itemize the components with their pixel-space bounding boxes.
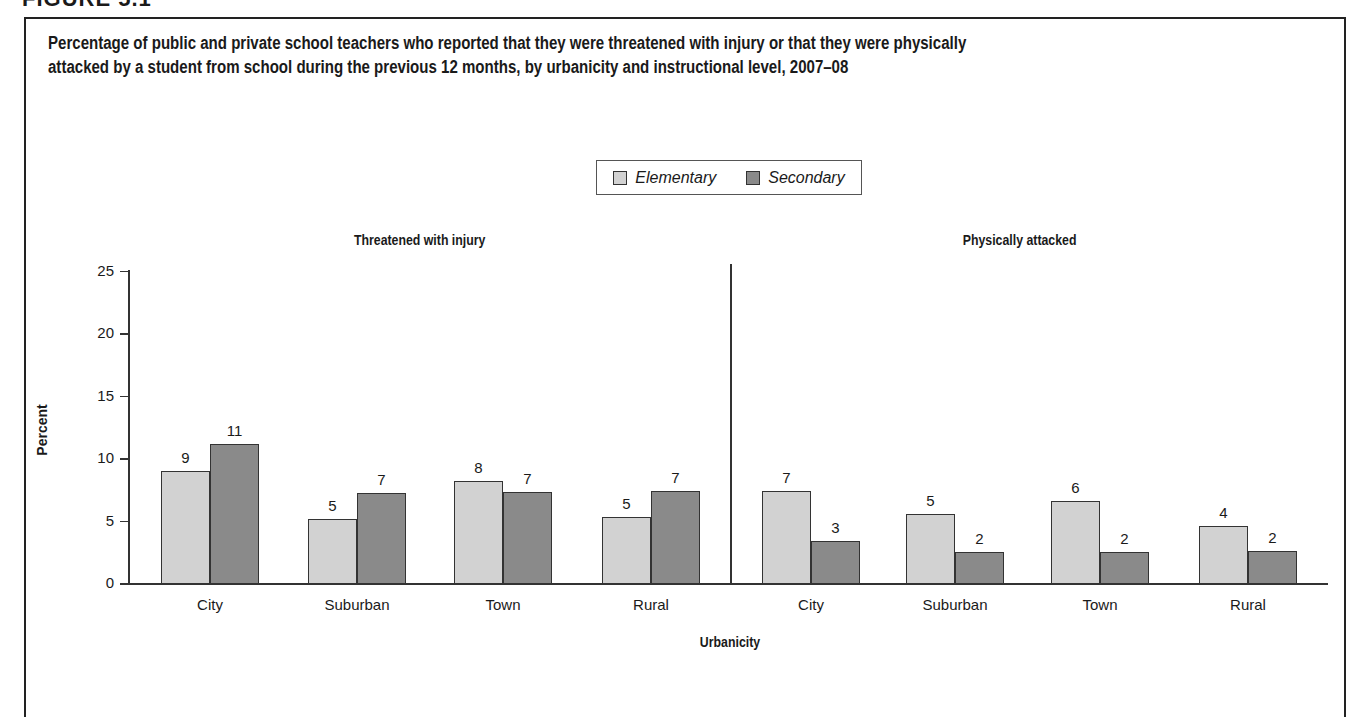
bar-value-label: 5 [622, 495, 630, 512]
legend-item-elementary: Elementary [613, 169, 716, 187]
y-tick-label: 10 [84, 449, 114, 466]
y-tick-label: 15 [84, 387, 114, 404]
panel-title-threatened: Threatened with injury [354, 232, 485, 248]
legend-swatch-elementary [613, 171, 627, 185]
bar-value-label: 11 [227, 422, 243, 439]
bar-value-label: 7 [523, 470, 531, 487]
chart-title-line-1: Percentage of public and private school … [48, 31, 1338, 55]
y-axis-label: Percent [34, 404, 50, 455]
legend-label-elementary: Elementary [635, 169, 716, 187]
x-category-label: Town [485, 596, 520, 613]
x-category-label: Rural [633, 596, 669, 613]
chart-title-line-2: attacked by a student from school during… [48, 55, 1338, 79]
bar-elementary [308, 519, 357, 584]
bar-value-label: 3 [831, 519, 839, 536]
bar-secondary [210, 444, 259, 584]
y-tick-label: 0 [84, 574, 114, 591]
bar-elementary [1199, 526, 1248, 585]
bar-elementary [906, 514, 955, 584]
bar-elementary [454, 481, 503, 585]
bar-secondary [955, 552, 1004, 584]
y-axis-line [128, 270, 130, 584]
bar-value-label: 4 [1219, 504, 1227, 521]
bar-elementary [161, 471, 210, 585]
panel-divider [730, 264, 732, 584]
y-tick-mark [120, 458, 128, 460]
bar-secondary [1100, 552, 1149, 584]
bar-secondary [651, 491, 700, 585]
panel-title-attacked: Physically attacked [963, 232, 1077, 248]
y-tick-mark [120, 396, 128, 398]
y-tick-label: 20 [84, 324, 114, 341]
bar-value-label: 6 [1071, 479, 1079, 496]
figure-label: FIGURE 5.1 [22, 0, 152, 12]
y-tick-mark [120, 271, 128, 273]
bar-value-label: 9 [181, 449, 189, 466]
bar-value-label: 2 [1120, 530, 1128, 547]
y-tick-mark [120, 583, 128, 585]
bar-value-label: 5 [328, 497, 336, 514]
bar-secondary [811, 541, 860, 585]
x-category-label: Suburban [922, 596, 987, 613]
chart-title: Percentage of public and private school … [48, 31, 1338, 79]
bar-value-label: 7 [671, 469, 679, 486]
y-tick-mark [120, 521, 128, 523]
bar-elementary [1051, 501, 1100, 585]
bar-value-label: 7 [782, 469, 790, 486]
x-category-label: Rural [1230, 596, 1266, 613]
bar-value-label: 8 [474, 459, 482, 476]
legend-swatch-secondary [746, 171, 760, 185]
bar-elementary [762, 491, 811, 585]
y-tick-mark [120, 333, 128, 335]
x-category-label: City [798, 596, 824, 613]
y-tick-label: 5 [84, 512, 114, 529]
legend-item-secondary: Secondary [746, 169, 845, 187]
bar-secondary [357, 493, 406, 584]
legend: Elementary Secondary [596, 160, 862, 195]
bar-elementary [602, 517, 651, 584]
x-category-label: Suburban [324, 596, 389, 613]
bar-secondary [503, 492, 552, 584]
x-category-label: City [197, 596, 223, 613]
x-category-label: Town [1082, 596, 1117, 613]
legend-label-secondary: Secondary [768, 169, 845, 187]
x-axis-label: Urbanicity [700, 634, 760, 650]
y-tick-label: 25 [84, 262, 114, 279]
bar-value-label: 7 [377, 471, 385, 488]
bar-value-label: 2 [1268, 529, 1276, 546]
bar-value-label: 5 [926, 492, 934, 509]
bar-secondary [1248, 551, 1297, 585]
bar-value-label: 2 [975, 530, 983, 547]
